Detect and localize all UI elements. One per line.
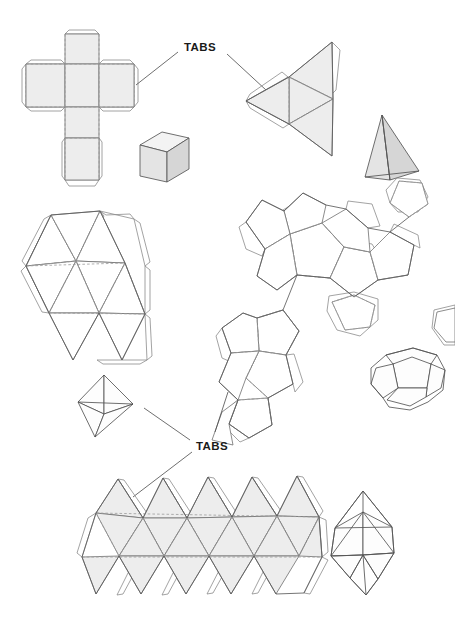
icosahedron-net-tab-left — [77, 513, 96, 557]
cube-net-tab-bottom-right — [99, 138, 102, 180]
dodecahedron-net-face-far-right — [434, 308, 455, 342]
dodecahedron-solid-face-front — [393, 357, 431, 388]
octahedron-net-tab-e — [134, 219, 150, 266]
tetrahedron-net-face-outer-left — [246, 77, 289, 124]
icosahedron-net-face-bot-1 — [82, 556, 119, 594]
cube-net-tab-left-bottom — [26, 107, 65, 111]
tetrahedron-solid — [365, 115, 419, 180]
tabs-leader-to-tetrahedron — [227, 54, 266, 90]
octahedron-net-face-9 — [99, 313, 145, 360]
cube-net-face-top — [65, 34, 99, 64]
cube-net-tab-bottom — [65, 180, 99, 186]
icosahedron-net — [77, 476, 328, 595]
octahedron-net-tab-g — [145, 314, 152, 360]
tabs-leader-to-octahedron — [144, 408, 190, 440]
cube-solid-face-front — [140, 145, 167, 182]
icosahedron-net-face-top-1 — [96, 479, 143, 518]
cube-net-face-bottom — [65, 107, 99, 138]
cube-net-tab-bottom-left — [62, 138, 65, 180]
cube-net-face-center — [65, 64, 99, 107]
icosahedron-net-tab-right-lower — [304, 557, 328, 594]
cube-net-face-left — [26, 64, 65, 107]
tetrahedron-net — [246, 42, 340, 156]
cube-net-tab-right-top — [99, 60, 134, 64]
dodecahedron-net-face-lower-left — [222, 313, 259, 353]
dodecahedron-net-face-right-mid — [370, 232, 414, 280]
octahedron-net-tab-h — [97, 360, 147, 364]
icosahedron-solid — [331, 491, 394, 595]
icosahedron-net-face-top-4 — [232, 477, 277, 517]
cube-solid — [140, 132, 189, 182]
octahedron-net-tab-d — [100, 211, 134, 219]
cube-net — [22, 30, 138, 186]
cube-net-tab-left — [22, 64, 26, 107]
dodecahedron-net-face-top-right — [390, 181, 428, 217]
tabs-label-lower-group: TABS — [133, 392, 228, 497]
cube-net-tab-right-bottom — [99, 107, 134, 111]
dodecahedron-solid — [371, 348, 445, 410]
icosahedron-net-face-top-3 — [187, 477, 232, 518]
octahedron-net-tab-f — [145, 266, 150, 314]
octahedron-solid — [78, 375, 133, 437]
octahedron-net-face-8 — [49, 313, 99, 360]
icosahedron-net-face-top-5 — [277, 476, 319, 517]
octahedron-net — [21, 211, 152, 364]
cube-net-tab-left-top — [26, 60, 65, 64]
diagram-canvas: TABS — [0, 0, 455, 638]
tabs-label-upper: TABS — [184, 41, 216, 53]
dodecahedron-net — [212, 178, 455, 445]
dodecahedron-net-face-lower-center — [257, 310, 299, 355]
cube-net-face-bottom2 — [65, 138, 99, 180]
cube-net-face-right — [99, 64, 134, 107]
tabs-label-lower: TABS — [196, 440, 228, 452]
tabs-label-upper-group: TABS — [136, 41, 266, 90]
platonic-solids-figure: TABS — [0, 0, 455, 638]
icosahedron-solid-face-d — [363, 553, 394, 579]
tabs-leader-to-cube — [136, 52, 178, 85]
cube-net-tab-top — [65, 30, 99, 34]
cube-net-tab-right — [134, 64, 138, 107]
